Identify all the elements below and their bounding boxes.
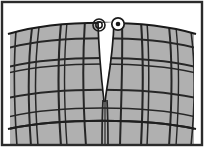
waist-button[interactable] [112,18,124,30]
illustration-frame: Plaid trousers front view with fly openi… [0,0,204,147]
center-seam-line-b [107,100,108,146]
button-center-dot [116,22,121,27]
center-seam-line-a [102,100,103,146]
plaid-trousers-illustration: Plaid trousers front view with fly openi… [0,0,204,147]
